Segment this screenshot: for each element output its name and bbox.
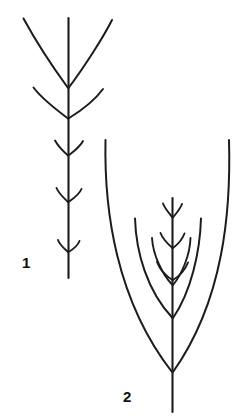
figure-1-branch-right-2 — [69, 89, 104, 119]
figure-2-apical-branch-right-1 — [173, 204, 182, 218]
figure-2-apical-branch-left-2 — [161, 233, 173, 248]
figure-1-label: 1 — [22, 255, 30, 270]
figure-2-branch-left-middle — [135, 219, 173, 319]
line-drawing-canvas — [0, 0, 245, 416]
figure-2-label: 2 — [123, 389, 131, 404]
figure-2-branch-left-outer — [105, 140, 172, 372]
figure-1-branch-left-2 — [34, 88, 69, 119]
figure-2-apical-branch-right-2 — [173, 234, 185, 249]
figure-1-branch-left-1 — [24, 19, 69, 89]
figure-1-branch-left-3 — [55, 141, 68, 156]
figure-1-branch-left-4 — [57, 188, 69, 202]
illustration-plate: 1 2 — [0, 0, 245, 416]
figure-1-branch-right-1 — [69, 20, 113, 88]
figure-1-branch-right-4 — [69, 189, 82, 202]
figure-2-branch-right-middle — [173, 219, 201, 319]
figure-2-branch-right-outer — [173, 140, 229, 372]
figure-1-branch-right-3 — [69, 141, 84, 156]
figure-1-group — [24, 18, 113, 278]
figure-2-apical-branch-left-1 — [163, 204, 173, 218]
figure-1-branch-right-5 — [69, 241, 80, 252]
figure-2-group — [105, 140, 229, 412]
figure-2-apical-branch-right-3 — [173, 263, 188, 281]
figure-1-branch-left-5 — [58, 240, 68, 252]
